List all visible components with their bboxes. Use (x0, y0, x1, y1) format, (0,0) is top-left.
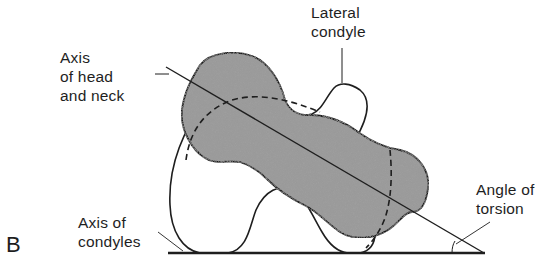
angle-of-torsion-leader (456, 222, 490, 244)
angle-of-torsion-arc (452, 241, 455, 253)
label-axis-head-neck: Axis of head and neck (60, 48, 125, 105)
femoral-torsion-diagram: Axis of head and neck Lateral condyle An… (0, 0, 557, 274)
label-angle-of-torsion: Angle of torsion (476, 180, 534, 218)
label-lateral-condyle: Lateral condyle (311, 3, 366, 41)
panel-letter: B (6, 233, 21, 257)
label-axis-of-condyles: Axis of condyles (78, 213, 141, 251)
